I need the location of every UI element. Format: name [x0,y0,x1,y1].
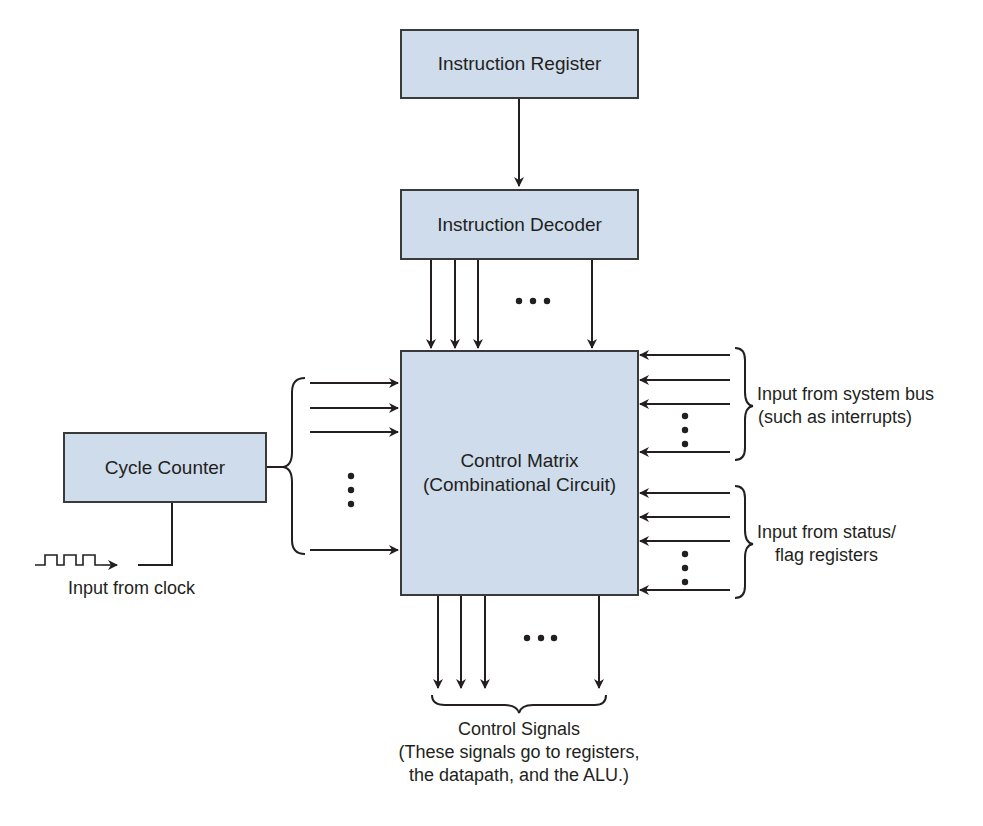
control-signals-desc-2: the datapath, and the ALU.) [359,764,679,787]
cycle-counter-label: Cycle Counter [105,456,225,480]
system-bus-line1: Input from system bus [757,383,934,406]
status-flag-input-label: Input from status/ flag registers [757,521,896,567]
cycle-counter-block: Cycle Counter [63,432,267,503]
clock-input-label: Input from clock [68,577,195,600]
status-flag-line2: flag registers [757,544,896,567]
system-bus-input-label: Input from system bus (such as interrupt… [757,383,934,429]
control-matrix-title: Control Matrix [460,449,578,473]
instruction-register-label: Instruction Register [438,52,602,76]
system-bus-line2: (such as interrupts) [757,406,934,429]
instruction-register-block: Instruction Register [400,29,639,99]
control-signals-title: Control Signals [399,718,639,741]
control-matrix-block: Control Matrix (Combinational Circuit) [400,350,639,596]
control-signals-label: Control Signals (These signals go to reg… [399,718,639,787]
instruction-decoder-block: Instruction Decoder [400,189,639,260]
control-matrix-subtitle: (Combinational Circuit) [423,473,616,497]
status-flag-line1: Input from status/ [757,521,896,544]
control-signals-desc-1: (These signals go to registers, [359,741,679,764]
instruction-decoder-label: Instruction Decoder [437,213,602,237]
